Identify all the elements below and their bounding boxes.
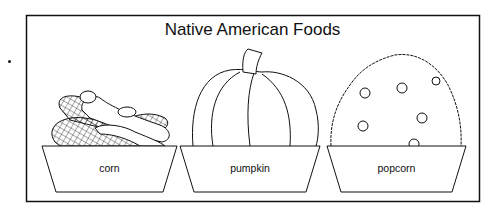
- label-popcorn: popcorn: [327, 162, 466, 174]
- page-title: Native American Foods: [26, 20, 479, 40]
- label-pumpkin: pumpkin: [180, 162, 320, 174]
- popcorn-icon: [331, 54, 461, 149]
- corn-icon: [52, 91, 169, 146]
- pumpkin-icon: [192, 49, 318, 146]
- label-corn: corn: [42, 162, 177, 174]
